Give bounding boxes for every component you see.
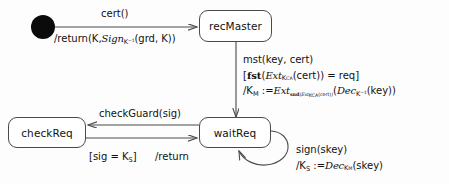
state-waitreq[interactable]: waitReq (199, 117, 271, 148)
eff-assign: := (262, 85, 274, 96)
guard-ext-sub2: CA (286, 76, 293, 81)
selfloop-lhs: /K (296, 160, 306, 171)
label-waitreq-self-loop: sign(skey) /KS :=DecKM(skey) (296, 142, 383, 173)
eff-ext-snd: snd (290, 92, 299, 97)
label-init-trigger: cert() (101, 8, 129, 20)
selfloop-effect-line: /KS :=DecKM(skey) (296, 158, 383, 174)
sig-guard-close: ] (133, 151, 137, 162)
checkguard-text: checkGuard(sig) (99, 108, 181, 119)
selfloop-trigger-line: sign(skey) (296, 142, 383, 158)
init-trigger-text: cert() (101, 8, 129, 19)
state-checkreq[interactable]: checkReq (8, 117, 86, 148)
mst-guard-line: [fst(ExtKCA(cert)) = req] (243, 68, 396, 84)
eff-ext: Ext (274, 85, 290, 96)
state-machine-diagram: recMaster waitReq checkReq cert() /retur… (0, 0, 449, 184)
init-effect-prefix: /return(K, (54, 33, 102, 44)
label-recmaster-to-waitreq: mst(key, cert) [fst(ExtKCA(cert)) = req]… (243, 52, 396, 99)
mst-effect-line: /KM :=Extsnd(ExtKCA(cert))(DecK−1(key)) (243, 83, 396, 99)
selfloop-assign: := (313, 160, 325, 171)
selfloop-trigger-text: sign(skey) (296, 144, 347, 155)
init-effect-sign-fn: Sign (102, 33, 124, 44)
state-recmaster-label: recMaster (209, 20, 262, 32)
state-recmaster[interactable]: recMaster (199, 10, 272, 42)
guard-ext: Ext (265, 70, 281, 81)
initial-pseudostate (31, 15, 55, 39)
guard-fst: fst (247, 70, 262, 81)
label-return-effect: /return (155, 151, 189, 163)
mst-trigger-text: mst(key, cert) (243, 54, 313, 65)
eff-lhs: /K (243, 85, 253, 96)
return-effect-text: /return (155, 151, 189, 162)
eff-lhs-sub: M (253, 90, 259, 98)
label-init-effect: /return(K,SignK−1(grd, K)) (54, 33, 176, 45)
label-checkguard: checkGuard(sig) (99, 108, 181, 120)
state-checkreq-label: checkReq (21, 127, 73, 139)
init-effect-args: (grd, K)) (134, 33, 175, 44)
eff-ext-inner: Ext (301, 92, 308, 97)
guard-mid: (cert)) = req (293, 70, 356, 81)
eff-dec: Dec (337, 85, 356, 96)
sig-guard-open: [sig = K (89, 151, 129, 162)
label-sig-guard: [sig = KS] (89, 151, 137, 163)
eff-ext-tail: (cert)) (318, 92, 333, 97)
mst-trigger-line: mst(key, cert) (243, 52, 396, 68)
selfloop-lhs-sub: S (306, 164, 310, 172)
selfloop-dec-arg: (skey) (352, 160, 383, 171)
guard-close: ] (355, 70, 359, 81)
eff-dec-arg: (key)) (367, 85, 396, 96)
state-waitreq-label: waitReq (214, 127, 257, 139)
selfloop-dec: Dec (325, 160, 344, 171)
